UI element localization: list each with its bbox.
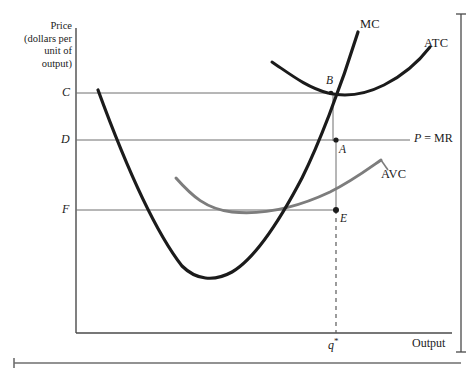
axes — [76, 28, 452, 333]
point-marker-b — [329, 91, 334, 96]
frame-right-rule — [456, 14, 466, 352]
mc-curve — [98, 32, 358, 278]
cost-curves-figure: Price (dollars per unit of output) C D F… — [0, 0, 476, 376]
avc-label-leader — [381, 160, 388, 170]
bottom-rule — [14, 358, 461, 368]
avc-curve — [176, 160, 381, 213]
point-marker-e — [333, 207, 339, 213]
plot-svg — [0, 0, 476, 376]
point-marker-a — [333, 137, 338, 142]
